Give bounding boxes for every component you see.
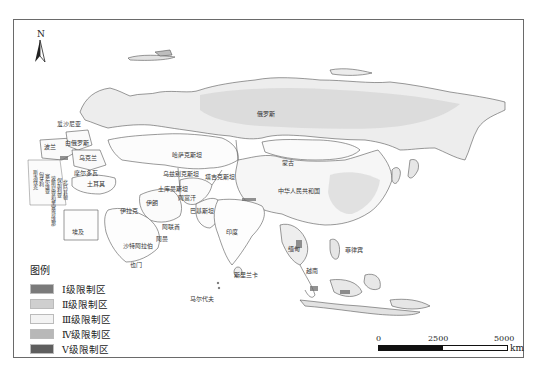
legend-swatch-class-2: [30, 299, 54, 309]
scale-tick-2500: 2500: [428, 334, 448, 343]
map-legend: 图例 Ⅰ级限制区 Ⅱ级限制区 Ⅲ级限制区 Ⅳ级限制区 Ⅴ级限制区: [30, 262, 112, 356]
label-turkey: 土耳其: [87, 181, 105, 187]
label-iraq: 伊拉克: [120, 208, 138, 214]
label-india: 印度: [226, 229, 238, 235]
label-poland: 波兰: [44, 144, 56, 150]
north-arrow-label: N: [37, 29, 45, 39]
label-north-macedonia: 北马其顿: [62, 180, 67, 200]
legend-title: 图例: [30, 262, 112, 277]
scale-bar: 0 2500 5000 km: [378, 334, 530, 351]
label-afghanistan: 阿富汗: [178, 195, 196, 201]
label-bulgaria: 保加利亚: [56, 178, 61, 198]
legend-swatch-class-5: [30, 344, 54, 354]
label-sri-lanka: 斯里兰卡: [234, 272, 258, 278]
label-slovakia: 斯洛伐克: [32, 170, 37, 190]
label-pakistan: 巴基斯坦: [190, 208, 214, 214]
label-tajikistan: 塔吉克斯坦: [205, 174, 235, 180]
label-philippines: 菲律宾: [345, 247, 363, 253]
legend-item-class-1: Ⅰ级限制区: [30, 281, 112, 296]
label-mongolia: 蒙古: [282, 160, 294, 166]
label-turkmenistan: 土库曼斯坦: [158, 186, 188, 192]
label-myanmar: 缅甸: [288, 246, 300, 252]
label-estonia: 爱沙尼亚: [57, 121, 81, 127]
north-arrow-icon: [35, 40, 45, 62]
label-russia: 俄罗斯: [257, 111, 275, 117]
label-ukraine: 乌克兰: [79, 155, 97, 161]
legend-item-class-4: Ⅳ级限制区: [30, 326, 112, 341]
label-moldova: 摩尔多瓦: [74, 170, 98, 176]
legend-swatch-class-1: [30, 284, 54, 294]
label-bosnia: 波斯尼亚和黑塞哥维那: [50, 176, 55, 226]
legend-item-class-3: Ⅲ级限制区: [30, 311, 112, 326]
label-egypt: 埃及: [72, 229, 84, 235]
label-iran: 伊朗: [146, 200, 158, 206]
label-vietnam: 越南: [306, 268, 318, 274]
label-uae: 阿联酋: [162, 224, 180, 230]
label-kazakhstan: 哈萨克斯坦: [172, 152, 202, 158]
scale-bar-graphic: [378, 345, 508, 351]
label-saudi-arabia: 沙特阿拉伯: [123, 243, 153, 249]
legend-swatch-class-4: [30, 329, 54, 339]
label-yemen: 也门: [130, 262, 142, 268]
label-hungary: 匈牙利: [38, 172, 43, 187]
scale-unit: km: [510, 343, 524, 353]
label-belarus: 白俄罗斯: [65, 140, 89, 146]
scale-tick-5000: 5000: [494, 334, 514, 343]
label-uzbekistan: 乌兹别克斯坦: [163, 171, 199, 177]
legend-item-class-5: Ⅴ级限制区: [30, 341, 112, 356]
scale-tick-0: 0: [376, 334, 381, 343]
label-china: 中华人民共和国: [278, 188, 320, 194]
legend-swatch-class-3: [30, 314, 54, 324]
label-oman: 阿曼: [156, 236, 168, 242]
legend-item-class-2: Ⅱ级限制区: [30, 296, 112, 311]
label-serbia: 塞尔维亚: [44, 174, 49, 194]
label-maldives: 马尔代夫: [190, 296, 214, 302]
